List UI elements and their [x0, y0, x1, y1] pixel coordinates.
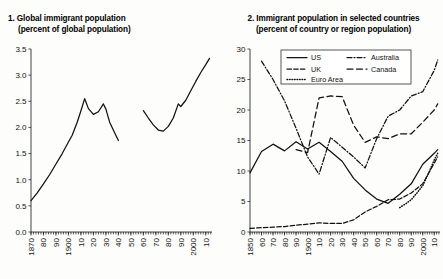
- chart-panel-countries: 2. Immigrant population in selected coun…: [218, 0, 443, 279]
- y-tick-label: 2.0: [15, 123, 27, 132]
- x-tick-label: 80: [39, 237, 48, 246]
- x-tick-label: 90: [292, 237, 301, 246]
- series-line-uk: [250, 157, 438, 228]
- y-tick-label: 15: [237, 136, 246, 145]
- y-tick-label: 3.5: [15, 45, 27, 54]
- y-tick-label: 3.0: [15, 71, 27, 80]
- x-tick-label: 30: [102, 237, 111, 246]
- x-tick-label: 70: [384, 237, 393, 246]
- x-tick-label: 1900: [304, 237, 313, 255]
- y-tick-label: 30: [237, 45, 246, 54]
- x-tick-label: 90: [52, 237, 61, 246]
- y-tick-label: 10: [237, 167, 246, 176]
- y-tick-label: 20: [237, 106, 246, 115]
- chart2-legend: USAustraliaUKCanadaEuro Area: [281, 50, 411, 84]
- x-tick-label: 60: [258, 237, 267, 246]
- x-tick-label: 1900: [64, 237, 73, 255]
- x-tick-label: 10: [430, 237, 439, 246]
- x-tick-label: 40: [350, 237, 359, 246]
- x-tick-label: 2000: [419, 237, 428, 255]
- legend-label-canada: Canada: [371, 65, 396, 74]
- x-tick-label: 1850: [246, 237, 255, 255]
- chart2-plot: 0510152025301850607080901900102030405060…: [218, 0, 443, 279]
- x-tick-label: 50: [127, 237, 136, 246]
- x-tick-label: 90: [177, 237, 186, 246]
- x-tick-label: 10: [202, 237, 211, 246]
- y-tick-label: 0.0: [15, 228, 27, 237]
- y-tick-label: 2.5: [15, 97, 27, 106]
- y-tick-label: 25: [237, 75, 246, 84]
- series-line-canada: [296, 96, 438, 153]
- x-tick-label: 80: [281, 237, 290, 246]
- chart-panel-global: 1. Global immigrant population (percent …: [0, 0, 220, 279]
- legend-label-uk: UK: [311, 65, 321, 74]
- x-tick-label: 70: [152, 237, 161, 246]
- x-tick-label: 40: [114, 237, 123, 246]
- x-tick-label: 50: [361, 237, 370, 246]
- legend-label-us: US: [311, 53, 321, 62]
- x-tick-label: 60: [139, 237, 148, 246]
- x-tick-label: 70: [269, 237, 278, 246]
- x-tick-label: 80: [396, 237, 405, 246]
- x-tick-label: 10: [77, 237, 86, 246]
- y-tick-label: 0: [241, 228, 246, 237]
- x-tick-label: 2000: [189, 237, 198, 255]
- x-tick-label: 60: [373, 237, 382, 246]
- y-tick-label: 1.0: [15, 176, 27, 185]
- x-tick-label: 80: [164, 237, 173, 246]
- x-tick-label: 20: [327, 237, 336, 246]
- x-tick-label: 1870: [27, 237, 36, 255]
- x-tick-label: 10: [315, 237, 324, 246]
- y-tick-label: 0.5: [15, 202, 27, 211]
- y-tick-label: 1.5: [15, 149, 27, 158]
- x-tick-label: 30: [338, 237, 347, 246]
- series-line-euro-area: [400, 153, 438, 207]
- series-line-world: [143, 58, 209, 131]
- x-tick-label: 90: [407, 237, 416, 246]
- legend-label-euro-area: Euro Area: [311, 75, 343, 84]
- legend-label-australia: Australia: [371, 53, 399, 62]
- series-line-world: [31, 99, 118, 201]
- chart1-plot: 0.00.51.01.52.02.53.03.51870809019001020…: [0, 0, 220, 279]
- y-tick-label: 5: [241, 197, 246, 206]
- x-tick-label: 20: [89, 237, 98, 246]
